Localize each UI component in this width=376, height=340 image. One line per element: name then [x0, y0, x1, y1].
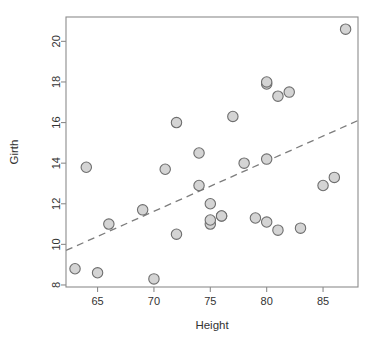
data-point: [171, 229, 181, 239]
y-tick-label: 18: [50, 76, 62, 88]
data-point: [250, 213, 260, 223]
y-axis-tick-labels: 8101214161820: [50, 35, 62, 288]
data-point: [194, 148, 204, 158]
x-tick-label: 85: [317, 295, 329, 307]
y-tick-label: 16: [50, 116, 62, 128]
data-point: [261, 77, 271, 87]
data-point: [329, 172, 339, 182]
x-axis-ticks: [98, 287, 323, 292]
data-point: [261, 154, 271, 164]
data-point: [273, 225, 283, 235]
data-point: [81, 162, 91, 172]
data-point: [160, 164, 170, 174]
data-point: [340, 24, 350, 34]
y-tick-label: 20: [50, 35, 62, 47]
y-axis-title: Girth: [8, 140, 20, 165]
x-tick-label: 80: [261, 295, 273, 307]
data-point: [261, 217, 271, 227]
data-point: [284, 87, 294, 97]
data-point: [137, 205, 147, 215]
data-point: [194, 180, 204, 190]
data-point: [295, 223, 305, 233]
data-point: [318, 180, 328, 190]
data-point: [149, 274, 159, 284]
scatter-plot-figure: 6570758085 8101214161820 Height Girth: [0, 0, 376, 340]
data-point: [70, 264, 80, 274]
data-point: [205, 199, 215, 209]
y-tick-label: 10: [50, 238, 62, 250]
plot-frame: [66, 17, 358, 287]
data-point: [171, 117, 181, 127]
data-point: [216, 211, 226, 221]
data-points-layer: [70, 24, 351, 284]
x-axis-tick-labels: 6570758085: [91, 295, 329, 307]
x-tick-label: 75: [204, 295, 216, 307]
regression-line: [66, 121, 358, 251]
data-point: [239, 158, 249, 168]
x-tick-label: 65: [91, 295, 103, 307]
data-point: [205, 215, 215, 225]
y-tick-label: 14: [50, 157, 62, 169]
data-point: [92, 268, 102, 278]
data-point: [228, 111, 238, 121]
x-tick-label: 70: [148, 295, 160, 307]
y-tick-label: 8: [50, 282, 62, 288]
data-point: [273, 91, 283, 101]
x-axis-title: Height: [195, 319, 229, 331]
plot-canvas: 6570758085 8101214161820 Height Girth: [0, 0, 376, 340]
data-point: [104, 219, 114, 229]
y-tick-label: 12: [50, 198, 62, 210]
